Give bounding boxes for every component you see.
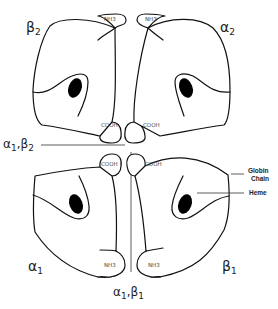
alpha1-globin-chain xyxy=(34,167,121,277)
alpha1-nh3-label: NH3 xyxy=(104,262,116,268)
alpha1-beta2-interface-label: α1,β2 xyxy=(3,137,34,153)
alpha2-cooh-label: COOH xyxy=(143,122,160,128)
beta2-cooh-label: COOH xyxy=(101,122,118,128)
alpha2-nh3-label: NH3 xyxy=(145,16,157,22)
beta1-label: β1 xyxy=(222,258,237,276)
globin-callout-line1: Globin xyxy=(248,167,269,174)
beta2-label: β2 xyxy=(26,19,41,37)
subunit-beta1: COOH NH3 β1 xyxy=(127,154,237,277)
alpha1-beta1-interface-label: α1,β1 xyxy=(113,285,144,301)
beta2-nh3-label: NH3 xyxy=(104,16,116,22)
beta1-nh3-label: NH3 xyxy=(148,262,160,268)
subunit-alpha2: NH3 COOH α2 xyxy=(125,14,235,143)
subunit-alpha1: COOH NH3 α1 xyxy=(28,154,125,277)
alpha2-label: α2 xyxy=(220,19,235,37)
subunit-beta2: NH3 COOH β2 xyxy=(26,14,126,143)
globin-callout-line2: Chain xyxy=(251,175,269,182)
beta1-cooh-label: COOH xyxy=(145,161,162,167)
alpha1-cooh-label: COOH xyxy=(101,161,118,167)
beta2-globin-chain xyxy=(33,19,115,136)
heme-callout-label: Heme xyxy=(249,189,267,196)
hemoglobin-diagram: NH3 COOH β2 NH3 COOH α2 COOH NH3 α1 COOH xyxy=(0,0,278,309)
alpha1-label: α1 xyxy=(28,258,43,276)
alpha2-globin-chain xyxy=(134,19,230,136)
